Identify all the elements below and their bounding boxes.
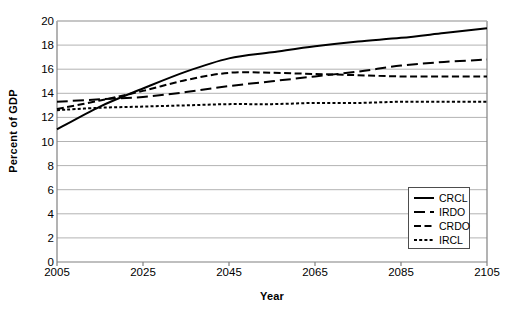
series-line-ircl	[57, 102, 487, 111]
x-tick-label: 2045	[216, 266, 242, 278]
legend-item-crdo: CRDO	[409, 219, 469, 233]
legend-label: CRDO	[439, 221, 470, 231]
series-line-crcl	[57, 28, 487, 129]
x-axis-title-wrap: Year	[57, 286, 487, 304]
legend-swatch-medium-dash	[413, 221, 435, 231]
legend-label: IRDO	[439, 207, 465, 217]
chart-container: Percent of GDP 02468101214161820 2005202…	[0, 0, 511, 310]
x-tick-label: 2025	[130, 266, 156, 278]
chart-legend: CRCLIRDOCRDOIRCL	[408, 187, 470, 249]
legend-item-ircl: IRCL	[409, 233, 469, 247]
legend-swatch-solid	[413, 193, 435, 203]
legend-swatch-long-dash	[413, 207, 435, 217]
legend-item-crcl: CRCL	[409, 191, 469, 205]
x-tick-label: 2085	[388, 266, 414, 278]
legend-label: IRCL	[439, 235, 463, 245]
x-tick-label: 2105	[474, 266, 500, 278]
x-axis-title: Year	[260, 290, 284, 302]
legend-label: CRCL	[439, 193, 468, 203]
x-tick-label: 2065	[302, 266, 328, 278]
legend-swatch-dotted	[413, 235, 435, 245]
legend-item-irdo: IRDO	[409, 205, 469, 219]
x-tick-label: 2005	[44, 266, 70, 278]
plot-area	[0, 0, 511, 310]
